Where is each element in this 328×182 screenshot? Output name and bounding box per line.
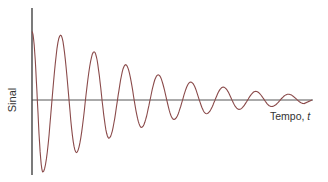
x-axis-label-text: Tempo, (270, 110, 307, 122)
signal-curve (32, 32, 312, 172)
damped-oscillation-chart (0, 0, 328, 182)
x-axis-variable: t (307, 110, 310, 122)
y-axis-label: Sinal (6, 88, 18, 112)
x-axis-label: Tempo, t (270, 110, 310, 122)
